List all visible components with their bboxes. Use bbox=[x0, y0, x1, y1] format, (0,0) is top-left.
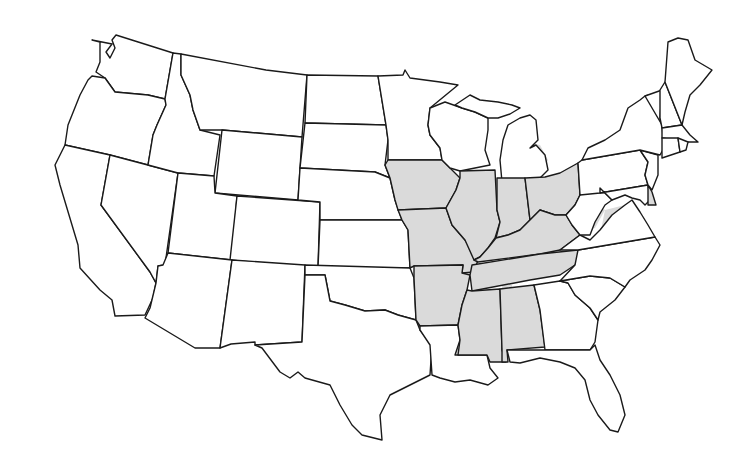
state-montana[interactable] bbox=[181, 54, 307, 137]
state-north-dakota[interactable] bbox=[305, 75, 386, 125]
state-florida[interactable] bbox=[507, 345, 625, 432]
states bbox=[55, 35, 712, 440]
state-colorado[interactable] bbox=[230, 196, 320, 268]
us-map bbox=[0, 0, 745, 466]
state-wyoming[interactable] bbox=[215, 130, 302, 200]
state-mississippi[interactable] bbox=[458, 289, 506, 362]
state-arizona[interactable] bbox=[145, 253, 232, 348]
state-kansas[interactable] bbox=[318, 220, 410, 268]
state-connecticut[interactable] bbox=[662, 138, 680, 158]
state-new-mexico[interactable] bbox=[220, 260, 305, 348]
